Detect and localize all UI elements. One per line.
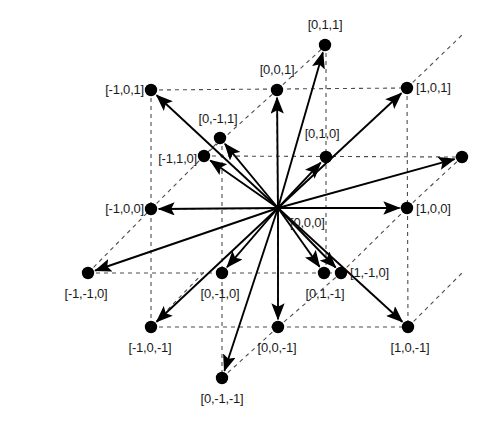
node-label-n_1_0_0: [1,0,0] <box>416 201 451 216</box>
node-label-n_0_1_1: [0,1,1] <box>308 17 343 32</box>
node-label-n_1_m1_0: [1,-1,0] <box>350 265 389 280</box>
lattice-node-dot <box>145 84 157 96</box>
lattice-node-dot <box>271 84 283 96</box>
dashed-grid-line <box>88 209 151 273</box>
lattice-node-dot <box>145 321 157 333</box>
node-label-n_1_0_1: [1,0,1] <box>416 80 451 95</box>
vector-arrow <box>159 208 278 209</box>
lattice-node-dot <box>198 150 210 162</box>
origin-label: [0,0,0] <box>290 215 325 230</box>
node-label-n_m1_1_0: [-1,1,0] <box>158 151 197 166</box>
origin-node-dot <box>276 206 281 211</box>
dashed-grid-line <box>341 208 407 273</box>
node-label-n_0_m1_0: [0,-1,0] <box>201 286 240 301</box>
lattice-diagram-figure: [0,0,0][0,1,1][0,0,1][-1,0,1][1,0,1][0,-… <box>0 0 489 421</box>
lattice-node-dot <box>216 267 228 279</box>
node-label-n_0_0_m1: [0,0,-1] <box>258 340 297 355</box>
dashed-grid-line <box>408 273 462 327</box>
lattice-node-dot <box>320 151 332 163</box>
lattice-node-dot <box>318 267 330 279</box>
lattice-node-dot <box>456 151 468 163</box>
lattice-node-dot <box>216 372 228 384</box>
node-label-n_0_m1_m1: [0,-1,-1] <box>201 391 244 406</box>
lattice-node-dot <box>82 267 94 279</box>
node-label-n_0_1_m1: [0,1,-1] <box>306 286 345 301</box>
node-label-n_0_1_0: [0,1,0] <box>305 126 340 141</box>
lattice-node-dot <box>145 203 157 215</box>
node-label-n_1_0_m1: [1,0,-1] <box>391 340 430 355</box>
lattice-node-dot <box>402 321 414 333</box>
lattice-node-dot <box>335 267 347 279</box>
node-label-n_m1_0_1: [-1,0,1] <box>105 82 144 97</box>
node-label-n_0_0_1: [0,0,1] <box>260 62 295 77</box>
node-label-n_m1_0_0: [-1,0,0] <box>105 201 144 216</box>
vector-arrow <box>277 98 278 208</box>
lattice-node-dot <box>401 202 413 214</box>
lattice-node-dot <box>319 39 331 51</box>
lattice-node-dot <box>272 321 284 333</box>
node-label-n_0_m1_1: [0,-1,1] <box>199 111 238 126</box>
lattice-node-dot <box>214 132 226 144</box>
node-label-n_m1_0_m1: [-1,0,-1] <box>129 340 172 355</box>
node-label-n_m1_m1_0: [-1,-1,0] <box>65 286 108 301</box>
lattice-node-dot <box>401 82 413 94</box>
